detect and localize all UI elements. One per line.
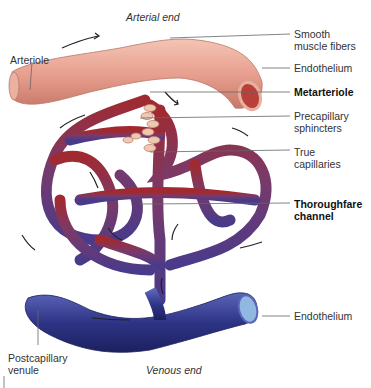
label-arterial-end: Arterial end bbox=[126, 11, 180, 23]
label-metarteriole: Metarteriole bbox=[294, 86, 354, 98]
label-arteriole: Arteriole bbox=[10, 54, 49, 66]
label-endothelium-bottom: Endothelium bbox=[294, 310, 352, 322]
label-thoroughfare-line2: channel bbox=[294, 210, 334, 222]
label-postcapillary-line1: Postcapillary bbox=[8, 352, 68, 364]
venule-vessel bbox=[25, 290, 260, 352]
label-postcapillary-line2: venule bbox=[8, 364, 39, 376]
label-smooth-muscle-line2: muscle fibers bbox=[294, 40, 356, 52]
label-venous-end: Venous end bbox=[146, 364, 202, 376]
label-precapillary-line2: sphincters bbox=[294, 122, 342, 134]
label-true-capillaries-line1: True bbox=[294, 146, 315, 158]
capillary-bed-illustration bbox=[0, 0, 371, 388]
label-precapillary-line1: Precapillary bbox=[294, 110, 349, 122]
label-true-capillaries-line2: capillaries bbox=[294, 158, 341, 170]
label-endothelium-top: Endothelium bbox=[294, 62, 352, 74]
label-thoroughfare-line1: Thoroughfare bbox=[294, 198, 362, 210]
capillary-network bbox=[46, 100, 265, 300]
label-smooth-muscle-line1: Smooth bbox=[294, 28, 330, 40]
